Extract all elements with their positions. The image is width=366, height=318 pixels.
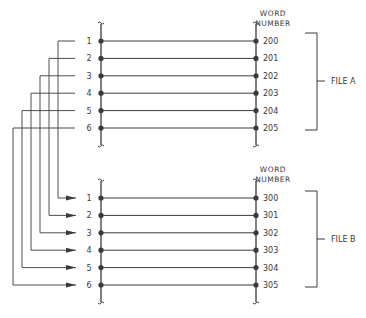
row-index-label: 2 xyxy=(86,211,91,220)
left-node-dot xyxy=(98,125,103,130)
axis-break-top-icon xyxy=(98,179,104,181)
left-node-dot xyxy=(98,265,103,270)
left-node-dot xyxy=(98,213,103,218)
right-node-dot xyxy=(253,108,258,113)
word-number-label: 301 xyxy=(263,211,278,220)
right-node-dot xyxy=(253,56,258,61)
word-number-label: 201 xyxy=(263,54,278,63)
axis-break-bottom-icon xyxy=(253,145,259,147)
left-node-dot xyxy=(98,56,103,61)
file-bracket xyxy=(305,33,317,130)
connection-route-arrow xyxy=(49,58,76,215)
left-node-dot xyxy=(98,73,103,78)
word-number-label: 304 xyxy=(263,264,278,273)
file-label: FILE A xyxy=(331,77,356,86)
row-index-label: 1 xyxy=(86,194,91,203)
right-node-dot xyxy=(253,213,258,218)
axis-break-top-icon xyxy=(98,22,104,24)
file-b-block xyxy=(98,179,325,304)
right-node-dot xyxy=(253,230,258,235)
word-number-label: 300 xyxy=(263,194,278,203)
right-node-dot xyxy=(253,248,258,253)
left-node-dot xyxy=(98,38,103,43)
row-index-label: 3 xyxy=(86,72,91,81)
left-node-dot xyxy=(98,282,103,287)
number-header-label: NUMBER xyxy=(255,175,291,184)
row-index-label: 3 xyxy=(86,229,91,238)
word-number-label: 204 xyxy=(263,107,278,116)
row-index-label: 4 xyxy=(86,89,91,98)
axis-break-bottom-icon xyxy=(253,302,259,304)
axis-break-bottom-icon xyxy=(98,145,104,147)
file-a-block xyxy=(98,22,325,147)
word-number-label: 203 xyxy=(263,89,278,98)
left-node-dot xyxy=(98,195,103,200)
left-node-dot xyxy=(98,108,103,113)
row-index-label: 5 xyxy=(86,107,91,116)
word-number-label: 202 xyxy=(263,72,278,81)
left-node-dot xyxy=(98,248,103,253)
word-number-label: 302 xyxy=(263,229,278,238)
connection-route-arrow xyxy=(31,93,76,250)
right-node-dot xyxy=(253,91,258,96)
row-index-label: 6 xyxy=(86,281,91,290)
word-number-label: 200 xyxy=(263,37,278,46)
right-node-dot xyxy=(253,265,258,270)
word-header-label: WORD xyxy=(260,9,286,18)
file-label: FILE B xyxy=(331,235,356,244)
right-node-dot xyxy=(253,73,258,78)
word-number-label: 305 xyxy=(263,281,278,290)
file-bracket xyxy=(305,191,317,287)
right-node-dot xyxy=(253,38,258,43)
row-index-label: 5 xyxy=(86,264,91,273)
file-mapping-diagram: WORDNUMBER120022013202420352046205FILE A… xyxy=(0,0,366,318)
diagram-canvas: WORDNUMBER120022013202420352046205FILE A… xyxy=(0,0,366,318)
row-index-label: 1 xyxy=(86,37,91,46)
right-node-dot xyxy=(253,125,258,130)
right-node-dot xyxy=(253,282,258,287)
left-node-dot xyxy=(98,230,103,235)
word-number-label: 205 xyxy=(263,124,278,133)
connection-route-arrow xyxy=(58,41,76,198)
row-index-label: 2 xyxy=(86,54,91,63)
row-index-label: 6 xyxy=(86,124,91,133)
number-header-label: NUMBER xyxy=(255,19,291,28)
word-number-label: 303 xyxy=(263,246,278,255)
right-node-dot xyxy=(253,195,258,200)
row-index-label: 4 xyxy=(86,246,91,255)
left-node-dot xyxy=(98,91,103,96)
word-header-label: WORD xyxy=(260,165,286,174)
axis-break-bottom-icon xyxy=(98,302,104,304)
